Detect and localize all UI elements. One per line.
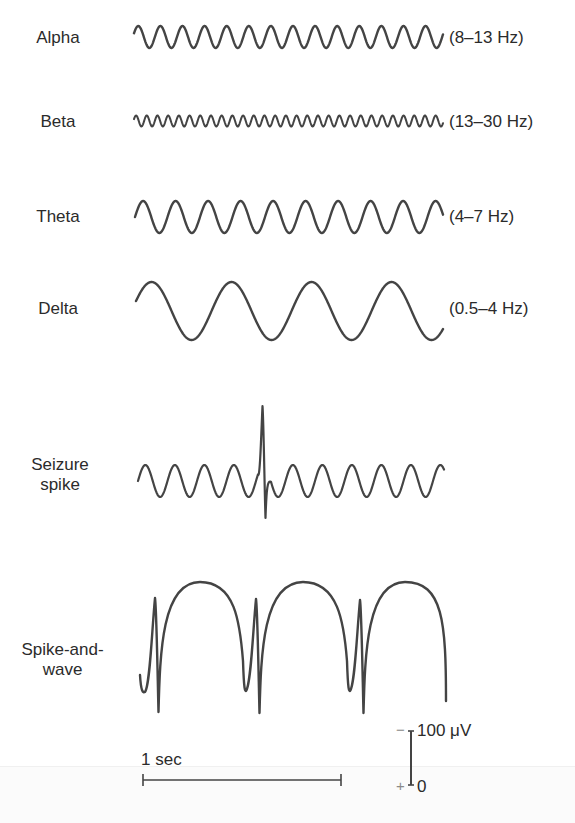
freq-beta: (13–30 Hz) xyxy=(449,112,533,132)
label-seizure-spike: Seizure spike xyxy=(10,455,110,495)
label-beta: Beta xyxy=(18,112,98,132)
minus-sign: − xyxy=(396,722,405,738)
voltage-scale-top-label: 100 μV xyxy=(417,721,471,741)
waveform-theta xyxy=(135,201,443,233)
label-theta: Theta xyxy=(18,207,98,227)
waveform-spike-and-wave xyxy=(140,582,446,713)
label-seizure-line1: Seizure xyxy=(10,455,110,475)
voltage-scale-bottom-label: 0 xyxy=(417,777,426,797)
waveform-delta xyxy=(136,282,443,340)
label-spike-and-wave-line1: Spike-and- xyxy=(5,640,120,660)
waveform-beta xyxy=(134,116,443,127)
freq-theta: (4–7 Hz) xyxy=(449,207,514,227)
plus-sign: + xyxy=(396,778,405,794)
time-scale-label: 1 sec xyxy=(141,750,182,770)
waveform-seizure-spike xyxy=(138,406,444,518)
waveform-alpha xyxy=(134,26,443,48)
freq-alpha: (8–13 Hz) xyxy=(449,28,524,48)
label-spike-and-wave-line2: wave xyxy=(5,660,120,680)
freq-delta: (0.5–4 Hz) xyxy=(449,299,528,319)
label-seizure-line2: spike xyxy=(10,475,110,495)
label-delta: Delta xyxy=(18,299,98,319)
label-spike-and-wave: Spike-and- wave xyxy=(5,640,120,680)
label-alpha: Alpha xyxy=(18,28,98,48)
